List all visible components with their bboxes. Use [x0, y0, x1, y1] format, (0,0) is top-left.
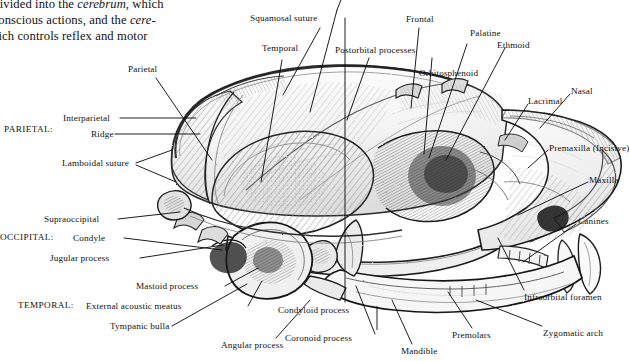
label-condyle: Condyle [73, 233, 105, 244]
label-squamosal-suture: Squamosal suture [250, 13, 317, 24]
body-text-segment: which controls reflex and motor [0, 29, 148, 43]
body-text-line-2: rols conscious actions, and the cere- [0, 12, 232, 28]
label-postorbital-processes: Postorbital processes [335, 45, 415, 56]
label-supraoccipital: Supraoccipital [44, 214, 99, 225]
label-angular-process: Angular process [221, 340, 283, 351]
label-maxilla: Maxilla [589, 175, 619, 186]
label-mastoid-process: Mastoid process [136, 281, 198, 292]
label-mandible: Mandible [401, 346, 437, 357]
body-text-segment: which [129, 0, 164, 11]
label-infraorbital-foramen: Infraorbital foramen [524, 292, 602, 303]
body-text-line-1: s, is divided into the cerebrum, which [0, 0, 232, 12]
label-condyloid-process: Condyloid process [278, 305, 349, 316]
label-external-acoustic-meatus: External acoustic meatus [86, 301, 181, 312]
label-ethmoid: Ethmoid [497, 40, 530, 51]
label-zygomatic-arch: Zygomatic arch [543, 328, 603, 339]
label-tympanic-bulla: Tympanic bulla [110, 321, 169, 332]
label-palatine: Palatine [470, 28, 501, 39]
label-coronoid-process: Coronoid process [285, 333, 352, 344]
label-premolars: Premolars [452, 330, 491, 341]
label-premaxilla-incisive: Premaxilla (Incisive) [549, 143, 629, 154]
label-orbitosphenoid: Orbitosphenoid [419, 68, 478, 79]
body-text-segment: rols conscious actions, and the [0, 13, 130, 27]
label-temporal: Temporal [262, 43, 298, 54]
label-nasal: Nasal [571, 86, 593, 97]
body-text-emphasis: cerebrum, [77, 0, 129, 11]
label-parietal: Parietal [128, 64, 157, 75]
label-frontal: Frontal [406, 14, 434, 25]
group-label-parietal: PARIETAL: [4, 124, 53, 135]
label-lacrimal: Lacrimal [528, 96, 562, 107]
body-text-emphasis: cere- [130, 13, 156, 27]
label-canines: Canines [578, 216, 609, 227]
group-label-temporal: TEMPORAL: [18, 300, 74, 311]
group-label-occipital: OCCIPITAL: [0, 232, 54, 243]
skull-illustration [150, 40, 628, 330]
label-jugular-process: Jugular process [50, 253, 109, 264]
label-lamboidal-suture: Lamboidal suture [62, 158, 129, 169]
body-text-segment: s, is divided into the [0, 0, 77, 11]
label-interparietal: Interparietal [63, 113, 110, 124]
leader-top-cut [337, 0, 341, 10]
label-ridge: Ridge [91, 129, 114, 140]
